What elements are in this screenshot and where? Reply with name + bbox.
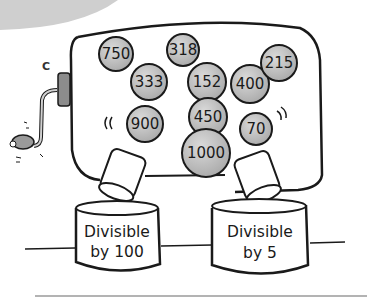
ball-333: 333 — [131, 64, 167, 100]
floor-line-right — [310, 242, 345, 243]
motion-marks-right — [277, 107, 286, 120]
bin-label-line2: by 5 — [243, 244, 277, 262]
svg-text:750: 750 — [102, 45, 131, 63]
svg-text:1000: 1000 — [187, 144, 225, 162]
svg-text:400: 400 — [236, 75, 265, 93]
ball-900: 900 — [127, 106, 163, 142]
motion-marks-left — [105, 117, 112, 129]
ball-152: 152 — [188, 63, 226, 101]
ball-215: 215 — [261, 45, 297, 81]
crank-handle-icon — [10, 73, 70, 162]
svg-text:70: 70 — [246, 120, 265, 138]
sorting-machine-illustration: C 750 318 333 152 400 215 900 450 70 100… — [0, 0, 367, 297]
bin-divisible-by-5: Divisible by 5 — [212, 199, 308, 274]
machine-body-left — [71, 37, 100, 180]
svg-text:333: 333 — [135, 73, 164, 91]
svg-text:152: 152 — [193, 73, 222, 91]
floor-line-mid — [161, 245, 212, 246]
decorative-top-arc — [0, 0, 118, 30]
figure-label: C — [42, 60, 50, 73]
ball-318: 318 — [167, 34, 199, 66]
chute-left — [97, 147, 147, 204]
ball-70: 70 — [240, 113, 272, 145]
bin-label-line2: by 100 — [90, 243, 144, 261]
floor-line-left — [25, 248, 75, 249]
bin-label-line1: Divisible — [227, 223, 293, 241]
svg-text:318: 318 — [169, 41, 198, 59]
bin-divisible-by-100: Divisible by 100 — [76, 201, 160, 271]
svg-text:900: 900 — [131, 115, 160, 133]
ball-1000: 1000 — [182, 129, 230, 177]
svg-text:215: 215 — [265, 54, 294, 72]
ball-750: 750 — [99, 37, 133, 71]
svg-text:450: 450 — [194, 108, 223, 126]
bin-label-line1: Divisible — [84, 223, 150, 241]
